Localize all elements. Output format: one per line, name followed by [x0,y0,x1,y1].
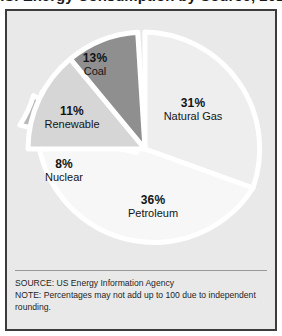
slice-name-coal: Coal [64,65,126,77]
pie-chart-svg [7,11,275,264]
slice-value-coal: 13% [64,52,126,65]
slice-label-nuclear: 8% Nuclear [29,158,99,184]
slice-name-natural-gas: Natural Gas [145,110,241,122]
slice-name-petroleum: Petroleum [103,207,203,219]
footnote-block: SOURCE: US Energy Information Agency NOT… [15,277,269,314]
slice-value-petroleum: 36% [103,194,203,207]
pie-chart: 13% Coal 31% Natural Gas 11% Renewable 8… [7,11,275,264]
slice-value-renewable: 11% [25,105,119,118]
slice-label-petroleum: 36% Petroleum [103,194,203,220]
footnote-source: SOURCE: US Energy Information Agency [15,277,269,289]
footer-divider [15,270,267,271]
slice-value-natural-gas: 31% [145,97,241,110]
slice-value-nuclear: 8% [29,158,99,171]
slice-label-coal: 13% Coal [64,52,126,78]
slice-name-renewable: Renewable [25,118,119,130]
slice-label-renewable: 11% Renewable [25,105,119,131]
slice-label-natural-gas: 31% Natural Gas [145,97,241,123]
chart-panel: 13% Coal 31% Natural Gas 11% Renewable 8… [5,9,277,331]
chart-title-strip: U.S. Energy Consumption by Source, 2012 [0,0,282,9]
footnote-note: NOTE: Percentages may not add up to 100 … [15,289,269,313]
page-title: U.S. Energy Consumption by Source, 2012 [0,0,282,4]
slice-name-nuclear: Nuclear [29,171,99,183]
